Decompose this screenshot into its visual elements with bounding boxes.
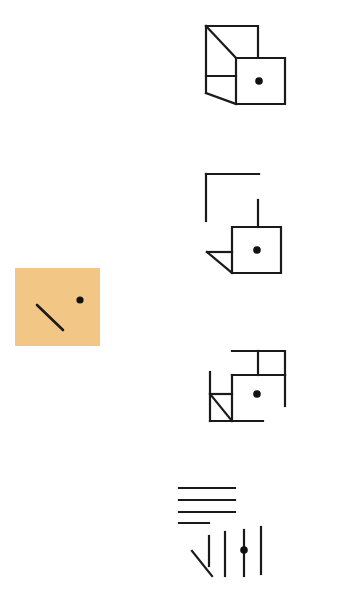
- option-hit-1[interactable]: [203, 22, 289, 108]
- option-hit-4[interactable]: [176, 483, 266, 576]
- puzzle-canvas: [0, 0, 342, 597]
- reference-panel[interactable]: [15, 268, 100, 346]
- option-hit-2[interactable]: [203, 170, 289, 276]
- option-hit-3[interactable]: [203, 348, 293, 428]
